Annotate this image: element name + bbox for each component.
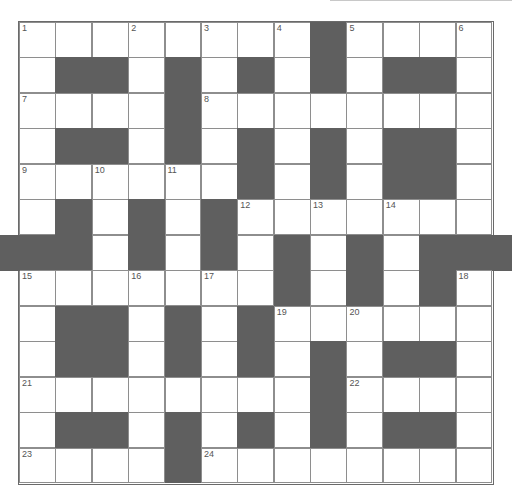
answer-cell[interactable]: 19 [274, 306, 311, 342]
answer-cell[interactable] [456, 93, 493, 129]
answer-cell[interactable] [419, 377, 456, 413]
answer-cell[interactable] [128, 93, 165, 129]
answer-cell[interactable]: 13 [310, 199, 347, 235]
answer-cell[interactable] [201, 57, 238, 93]
answer-cell[interactable]: 16 [128, 270, 165, 306]
answer-cell[interactable]: 21 [19, 377, 56, 413]
answer-cell[interactable] [274, 164, 311, 200]
answer-cell[interactable] [19, 341, 56, 377]
answer-cell[interactable] [274, 448, 311, 484]
answer-cell[interactable] [310, 93, 347, 129]
answer-cell[interactable] [237, 93, 274, 129]
answer-cell[interactable] [165, 377, 202, 413]
answer-cell[interactable]: 15 [19, 270, 56, 306]
answer-cell[interactable] [201, 377, 238, 413]
answer-cell[interactable] [383, 270, 420, 306]
answer-cell[interactable] [19, 306, 56, 342]
answer-cell[interactable]: 14 [383, 199, 420, 235]
answer-cell[interactable] [92, 93, 129, 129]
answer-cell[interactable] [201, 128, 238, 164]
answer-cell[interactable] [92, 448, 129, 484]
answer-cell[interactable] [419, 22, 456, 58]
answer-cell[interactable] [274, 412, 311, 448]
answer-cell[interactable] [346, 199, 383, 235]
answer-cell[interactable] [165, 22, 202, 58]
answer-cell[interactable] [19, 57, 56, 93]
answer-cell[interactable] [55, 448, 92, 484]
answer-cell[interactable] [19, 412, 56, 448]
answer-cell[interactable] [383, 93, 420, 129]
answer-cell[interactable]: 8 [201, 93, 238, 129]
answer-cell[interactable] [128, 377, 165, 413]
answer-cell[interactable]: 12 [237, 199, 274, 235]
answer-cell[interactable] [310, 306, 347, 342]
answer-cell[interactable] [128, 306, 165, 342]
answer-cell[interactable] [419, 306, 456, 342]
answer-cell[interactable] [310, 270, 347, 306]
answer-cell[interactable] [346, 93, 383, 129]
answer-cell[interactable] [346, 57, 383, 93]
answer-cell[interactable] [92, 199, 129, 235]
answer-cell[interactable]: 9 [19, 164, 56, 200]
answer-cell[interactable] [55, 377, 92, 413]
answer-cell[interactable] [274, 341, 311, 377]
answer-cell[interactable] [346, 341, 383, 377]
answer-cell[interactable] [19, 199, 56, 235]
answer-cell[interactable] [237, 448, 274, 484]
answer-cell[interactable] [456, 199, 493, 235]
answer-cell[interactable] [165, 235, 202, 271]
answer-cell[interactable] [201, 164, 238, 200]
answer-cell[interactable] [456, 57, 493, 93]
answer-cell[interactable] [92, 22, 129, 58]
answer-cell[interactable]: 5 [346, 22, 383, 58]
answer-cell[interactable] [55, 22, 92, 58]
answer-cell[interactable] [165, 270, 202, 306]
answer-cell[interactable] [456, 128, 493, 164]
answer-cell[interactable] [383, 377, 420, 413]
answer-cell[interactable] [201, 341, 238, 377]
answer-cell[interactable]: 2 [128, 22, 165, 58]
answer-cell[interactable] [201, 412, 238, 448]
answer-cell[interactable] [19, 128, 56, 164]
answer-cell[interactable] [237, 22, 274, 58]
answer-cell[interactable] [346, 164, 383, 200]
answer-cell[interactable]: 20 [346, 306, 383, 342]
answer-cell[interactable] [201, 306, 238, 342]
answer-cell[interactable]: 18 [456, 270, 493, 306]
answer-cell[interactable] [274, 377, 311, 413]
answer-cell[interactable] [128, 412, 165, 448]
answer-cell[interactable] [419, 448, 456, 484]
answer-cell[interactable] [383, 306, 420, 342]
answer-cell[interactable] [55, 164, 92, 200]
answer-cell[interactable] [128, 57, 165, 93]
answer-cell[interactable] [383, 22, 420, 58]
answer-cell[interactable] [55, 270, 92, 306]
answer-cell[interactable]: 11 [165, 164, 202, 200]
answer-cell[interactable] [419, 199, 456, 235]
answer-cell[interactable]: 10 [92, 164, 129, 200]
answer-cell[interactable] [456, 448, 493, 484]
answer-cell[interactable] [346, 448, 383, 484]
answer-cell[interactable] [92, 377, 129, 413]
answer-cell[interactable] [165, 199, 202, 235]
answer-cell[interactable]: 22 [346, 377, 383, 413]
answer-cell[interactable]: 17 [201, 270, 238, 306]
answer-cell[interactable] [128, 448, 165, 484]
answer-cell[interactable] [128, 128, 165, 164]
answer-cell[interactable]: 7 [19, 93, 56, 129]
answer-cell[interactable]: 6 [456, 22, 493, 58]
answer-cell[interactable] [55, 93, 92, 129]
answer-cell[interactable] [274, 128, 311, 164]
answer-cell[interactable] [310, 448, 347, 484]
answer-cell[interactable] [456, 306, 493, 342]
answer-cell[interactable] [346, 128, 383, 164]
answer-cell[interactable] [274, 199, 311, 235]
answer-cell[interactable]: 23 [19, 448, 56, 484]
answer-cell[interactable] [456, 377, 493, 413]
answer-cell[interactable] [274, 93, 311, 129]
answer-cell[interactable] [128, 164, 165, 200]
answer-cell[interactable]: 1 [19, 22, 56, 58]
answer-cell[interactable] [419, 93, 456, 129]
answer-cell[interactable] [383, 448, 420, 484]
answer-cell[interactable]: 24 [201, 448, 238, 484]
